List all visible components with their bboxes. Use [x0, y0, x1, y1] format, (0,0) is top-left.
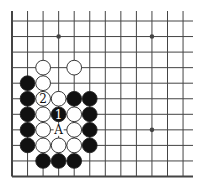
- white-stone: [67, 122, 82, 137]
- white-stone: [36, 107, 51, 122]
- markers: A: [53, 123, 63, 137]
- black-stone: [20, 76, 35, 91]
- white-stone: [67, 60, 82, 75]
- white-stone: [36, 138, 51, 153]
- white-stone: [36, 60, 51, 75]
- white-stone: [51, 91, 66, 106]
- white-stone: [67, 107, 82, 122]
- go-board: 21 A: [0, 0, 202, 194]
- point-marker-label: A: [53, 123, 63, 137]
- black-stone: [67, 154, 82, 169]
- black-stone: [67, 91, 82, 106]
- move-number-label: 2: [39, 92, 47, 106]
- black-stone: [20, 107, 35, 122]
- star-point: [150, 34, 155, 39]
- black-stone: [82, 91, 97, 106]
- star-point: [56, 34, 61, 39]
- black-stone: [20, 91, 35, 106]
- white-stone: [36, 76, 51, 91]
- black-stone: [82, 138, 97, 153]
- black-stone: [20, 122, 35, 137]
- black-stone: [51, 154, 66, 169]
- move-number-label: 1: [55, 108, 63, 122]
- star-point: [150, 128, 155, 133]
- white-stone: [67, 138, 82, 153]
- black-stone: [36, 154, 51, 169]
- black-stone: [82, 122, 97, 137]
- white-stone: [36, 122, 51, 137]
- black-stone: [82, 107, 97, 122]
- white-stone: [51, 138, 66, 153]
- black-stone: [20, 138, 35, 153]
